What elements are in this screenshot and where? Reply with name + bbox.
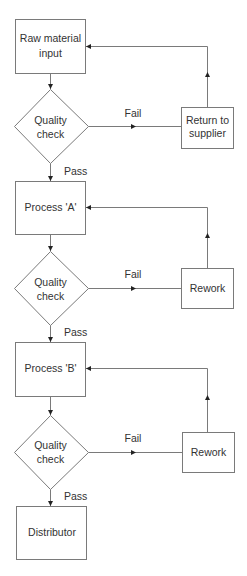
node-label: check [37, 453, 65, 465]
node-label: input [39, 47, 62, 59]
node-label: supplier [189, 127, 226, 139]
edge-rework1-to-process-a [86, 205, 210, 269]
arrow-down-icon [48, 410, 53, 415]
node-process-a: Process 'A' [16, 182, 86, 235]
node-process-b: Process 'B' [16, 343, 86, 397]
node-label: Return to [186, 114, 229, 126]
edge-process-a-to-qc2 [48, 235, 53, 252]
arrow-right-icon [131, 450, 136, 455]
quality-control-flowchart: Raw material input Quality check Fail Re… [0, 0, 247, 576]
node-rework-1: Rework [182, 269, 234, 309]
arrow-up-icon [205, 72, 210, 77]
node-label: Rework [191, 446, 227, 458]
node-label: Quality [34, 439, 67, 451]
node-quality-check-3: Quality check [15, 416, 89, 490]
node-label: Process 'B' [25, 362, 77, 374]
node-label: Rework [190, 282, 226, 294]
edge-label-fail: Fail [125, 107, 142, 119]
node-rework-2: Rework [183, 433, 235, 473]
arrow-down-icon [48, 176, 53, 181]
arrow-left-icon [86, 205, 91, 210]
edge-qc2-pass-to-process-b: Pass [48, 326, 87, 343]
edge-qc3-pass-to-distributor: Pass [48, 490, 87, 507]
node-label: Distributor [28, 526, 76, 538]
node-distributor: Distributor [17, 507, 87, 560]
edge-label-fail: Fail [125, 268, 142, 280]
arrow-left-icon [86, 366, 91, 371]
edge-process-b-to-qc3 [48, 397, 53, 416]
node-return-to-supplier: Return to supplier [182, 108, 234, 149]
edge-label-pass: Pass [64, 326, 87, 338]
node-quality-check-2: Quality check [15, 252, 89, 326]
arrow-down-icon [48, 337, 53, 342]
node-label: Process 'A' [25, 201, 77, 213]
node-label: Quality [34, 276, 67, 288]
arrow-right-icon [131, 124, 136, 129]
arrow-down-icon [48, 246, 53, 251]
arrow-left-icon [86, 44, 91, 49]
node-raw-material-input: Raw material input [16, 20, 86, 74]
edge-label-pass: Pass [64, 490, 87, 502]
node-quality-check-1: Quality check [15, 90, 89, 164]
edge-qc3-fail-to-rework: Fail [89, 432, 183, 455]
arrow-down-icon [48, 501, 53, 506]
arrow-up-icon [205, 395, 210, 400]
arrow-up-icon [205, 233, 210, 238]
edge-label-pass: Pass [64, 165, 87, 177]
arrow-right-icon [131, 286, 136, 291]
arrow-down-icon [48, 84, 53, 89]
edge-qc2-fail-to-rework: Fail [89, 268, 182, 291]
node-label: check [37, 290, 65, 302]
edge-raw-to-qc1 [48, 74, 53, 90]
edge-label-fail: Fail [125, 432, 142, 444]
node-label: Quality [34, 114, 67, 126]
node-label: check [37, 128, 65, 140]
edge-return-to-raw [86, 44, 210, 108]
edge-rework2-to-process-b [86, 366, 210, 433]
edge-qc1-pass-to-process-a: Pass [48, 164, 87, 182]
node-label: Raw material [20, 32, 81, 44]
edge-qc1-fail-to-return: Fail [89, 107, 182, 129]
